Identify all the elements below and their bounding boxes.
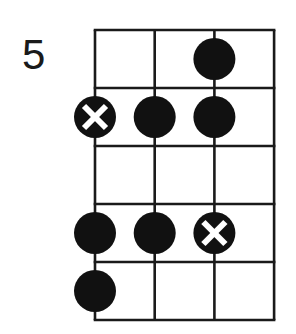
note-dot (74, 270, 116, 312)
note-dot (74, 212, 116, 254)
note-dot (193, 38, 235, 80)
fretboard-grid (0, 0, 296, 334)
note-dot (193, 96, 235, 138)
root-note-marker (74, 96, 116, 138)
note-dot (134, 96, 176, 138)
root-note-marker (193, 212, 235, 254)
grid-lines (94, 30, 276, 320)
note-dot (134, 212, 176, 254)
